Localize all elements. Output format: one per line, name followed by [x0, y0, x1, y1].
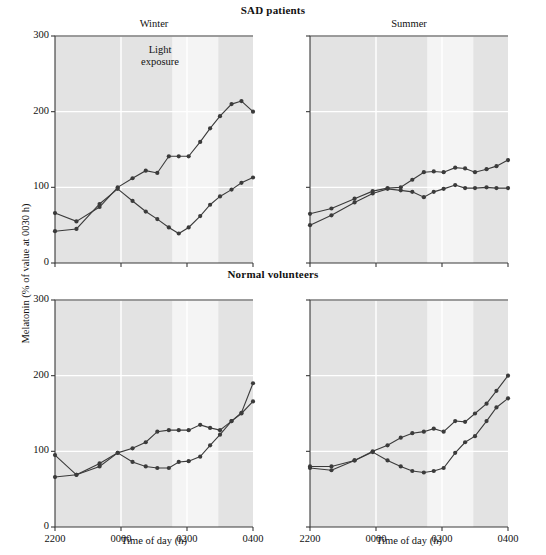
y-tick-label: 0: [7, 520, 49, 531]
data-point: [187, 225, 191, 229]
data-point: [251, 399, 255, 403]
data-point: [144, 209, 148, 213]
data-point: [239, 99, 243, 103]
data-point: [144, 169, 148, 173]
y-tick-label: 100: [7, 180, 49, 191]
data-point: [442, 187, 446, 191]
y-tick-label: 100: [7, 444, 49, 455]
light-exposure-line2: exposure: [120, 56, 200, 68]
data-point: [432, 469, 436, 473]
x-tick-label: 0000: [354, 533, 398, 544]
data-point: [229, 188, 233, 192]
data-point: [329, 213, 333, 217]
data-point: [167, 428, 171, 432]
data-point: [463, 186, 467, 190]
y-tick-label: 300: [7, 29, 49, 40]
data-point: [473, 170, 477, 174]
data-point: [506, 158, 510, 162]
data-point: [453, 451, 457, 455]
data-point: [473, 186, 477, 190]
data-point: [473, 411, 477, 415]
light-exposure-band: [427, 300, 473, 527]
y-tick-label: 200: [7, 105, 49, 116]
data-point: [218, 194, 222, 198]
data-point: [506, 186, 510, 190]
data-point: [208, 426, 212, 430]
light-exposure-band: [427, 36, 473, 263]
data-point: [177, 154, 181, 158]
data-point: [385, 458, 389, 462]
data-point: [442, 430, 446, 434]
melatonin-figure: SAD patients Normal volunteers Melatonin…: [0, 0, 546, 555]
data-point: [97, 205, 101, 209]
data-point: [155, 466, 159, 470]
x-tick-label: 0400: [231, 533, 275, 544]
x-tick-label: 2200: [288, 533, 332, 544]
data-point: [167, 225, 171, 229]
data-point: [251, 175, 255, 179]
y-tick-label: 200: [7, 369, 49, 380]
data-point: [251, 110, 255, 114]
data-point: [187, 428, 191, 432]
data-point: [155, 171, 159, 175]
data-point: [494, 164, 498, 168]
data-point: [329, 468, 333, 472]
data-point: [453, 166, 457, 170]
data-point: [177, 231, 181, 235]
x-tick-label: 0200: [420, 533, 464, 544]
data-point: [453, 183, 457, 187]
data-point: [229, 419, 233, 423]
data-point: [97, 461, 101, 465]
data-point: [399, 436, 403, 440]
plot-background: [55, 36, 253, 263]
data-point: [208, 203, 212, 207]
light-exposure-band: [172, 300, 218, 527]
data-point: [74, 219, 78, 223]
data-point: [432, 169, 436, 173]
data-point: [218, 428, 222, 432]
data-point: [410, 178, 414, 182]
data-point: [198, 455, 202, 459]
data-point: [410, 431, 414, 435]
data-point: [251, 381, 255, 385]
data-point: [453, 419, 457, 423]
data-point: [371, 449, 375, 453]
data-point: [352, 197, 356, 201]
data-point: [329, 464, 333, 468]
data-point: [352, 458, 356, 462]
data-point: [198, 423, 202, 427]
data-point: [218, 433, 222, 437]
data-point: [74, 227, 78, 231]
data-point: [442, 466, 446, 470]
data-point: [399, 185, 403, 189]
x-tick-label: 0400: [486, 533, 530, 544]
data-point: [442, 170, 446, 174]
data-point: [329, 206, 333, 210]
data-point: [155, 430, 159, 434]
data-point: [463, 166, 467, 170]
data-point: [229, 102, 233, 106]
plot-canvas: [0, 0, 546, 555]
data-point: [208, 126, 212, 130]
data-point: [385, 443, 389, 447]
data-point: [506, 396, 510, 400]
data-point: [484, 419, 488, 423]
data-point: [116, 185, 120, 189]
data-point: [422, 470, 426, 474]
data-point: [239, 181, 243, 185]
data-point: [494, 405, 498, 409]
data-point: [239, 411, 243, 415]
data-point: [494, 389, 498, 393]
light-exposure-line1: Light: [120, 44, 200, 56]
data-point: [130, 176, 134, 180]
x-tick-label: 0000: [99, 533, 143, 544]
data-point: [116, 451, 120, 455]
x-axis-label-left: Time of day (h): [55, 535, 253, 546]
light-exposure-band: [172, 36, 218, 263]
data-point: [463, 420, 467, 424]
data-point: [432, 190, 436, 194]
data-point: [432, 427, 436, 431]
data-point: [484, 402, 488, 406]
data-point: [484, 167, 488, 171]
data-point: [352, 200, 356, 204]
